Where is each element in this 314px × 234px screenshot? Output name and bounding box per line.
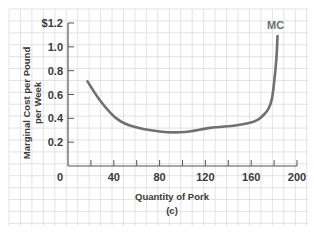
y-axis-title-line-2: per Week: [32, 81, 43, 124]
x-axis-title: Quantity of Pork: [135, 191, 210, 202]
x-tick-label: 200: [288, 171, 306, 183]
y-tick-label: 0.2: [48, 136, 63, 148]
x-tick-label: 120: [196, 171, 214, 183]
y-tick-label: $1.2: [42, 17, 63, 29]
chart: 040801201602000.20.40.60.81.0$1.2 MC Mar…: [0, 0, 314, 234]
y-tick-label: 1.0: [48, 41, 63, 53]
chart-subtitle: (c): [166, 205, 178, 216]
series-label-mc: MC: [267, 19, 284, 31]
tick-labels: 040801201602000.20.40.60.81.0$1.2: [42, 17, 307, 183]
series: [87, 36, 277, 132]
x-tick-label: 0: [57, 171, 63, 183]
series-line-mc: [87, 36, 277, 132]
y-tick-label: 0.8: [48, 65, 63, 77]
y-axis-title-line-1: Marginal Cost per Pound: [21, 47, 32, 160]
y-tick-label: 0.6: [48, 89, 63, 101]
x-tick-label: 80: [153, 171, 165, 183]
x-tick-label: 160: [242, 171, 260, 183]
x-tick-label: 40: [108, 171, 120, 183]
y-tick-label: 0.4: [48, 112, 64, 124]
